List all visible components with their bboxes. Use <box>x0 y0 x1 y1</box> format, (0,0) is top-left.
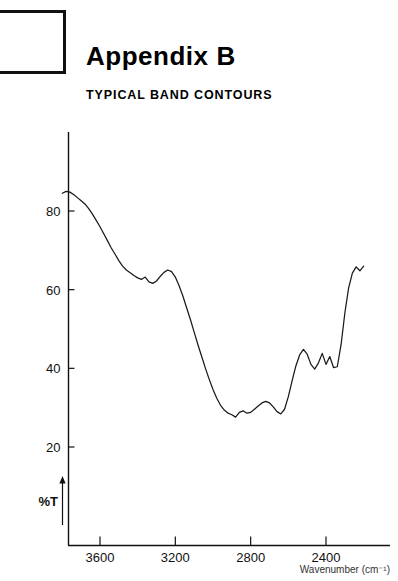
x-tick-label: 2400 <box>312 550 341 565</box>
x-tick-label: 2800 <box>236 550 265 565</box>
y-tick-label: 40 <box>46 361 60 376</box>
spectrum-curve <box>62 191 363 417</box>
y-tick-label: 60 <box>46 283 60 298</box>
appendix-page: AppendixB TYPICAL BAND CONTOURS 20406080… <box>0 0 398 581</box>
y-axis-label-group: %T <box>39 476 66 525</box>
y-tick-label: 20 <box>46 440 60 455</box>
x-axis-label: Wavenumber (cm⁻¹) <box>300 564 390 575</box>
spectrum-chart: 20406080 3600320028002400 %T Wavenumber … <box>0 0 398 581</box>
x-tick-group: 3600320028002400 <box>86 537 341 565</box>
x-tick-label: 3600 <box>86 550 115 565</box>
y-tick-group: 20406080 <box>46 204 74 455</box>
x-tick-label: 3200 <box>161 550 190 565</box>
y-axis-label: %T <box>39 494 59 509</box>
y-axis-arrow-head <box>59 476 65 484</box>
y-tick-label: 80 <box>46 204 60 219</box>
